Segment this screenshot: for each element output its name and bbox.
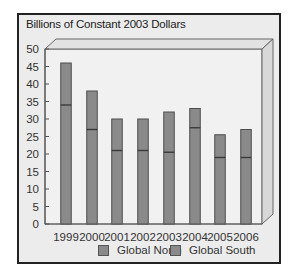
y-tick-label: 45	[26, 61, 39, 73]
x-tick-label: 2000	[79, 231, 105, 243]
y-tick-label: 25	[26, 131, 39, 143]
bar-2004	[190, 109, 201, 225]
legend-swatch-south	[170, 245, 181, 256]
x-tick-label: 1999	[53, 231, 79, 243]
bar-2000	[87, 91, 98, 224]
y-tick-label: 30	[26, 113, 39, 125]
legend-label-south: Global South	[189, 244, 256, 256]
x-tick-label: 2002	[130, 231, 156, 243]
y-tick-label: 35	[26, 96, 39, 108]
y-tick-label: 15	[26, 166, 39, 178]
plot-box-3d	[45, 39, 273, 224]
x-tick-label: 2001	[104, 231, 130, 243]
bar-2001	[112, 119, 123, 224]
x-tick-label: 2003	[156, 231, 182, 243]
legend-item-global-south: Global South	[170, 244, 256, 256]
bar-2005	[215, 135, 226, 224]
y-tick-label: 10	[26, 183, 39, 195]
y-tick-label: 0	[33, 218, 39, 230]
bar-2003	[164, 112, 175, 224]
y-tick-label: 40	[26, 78, 39, 90]
legend-swatch-north	[98, 245, 109, 256]
bar-2006	[241, 130, 252, 225]
bar-2002	[138, 119, 149, 224]
x-axis: 19992000200120022003200420052006	[53, 231, 259, 243]
y-tick-label: 5	[33, 201, 39, 213]
y-tick-label: 20	[26, 148, 39, 160]
bar-chart: 05101520253035404550 1999200020012002200…	[0, 0, 299, 280]
y-tick-label: 50	[26, 43, 39, 55]
x-tick-label: 2005	[207, 231, 233, 243]
y-axis: 05101520253035404550	[26, 43, 49, 230]
x-tick-label: 2006	[233, 231, 259, 243]
x-tick-label: 2004	[182, 231, 208, 243]
bar-1999	[61, 63, 72, 224]
